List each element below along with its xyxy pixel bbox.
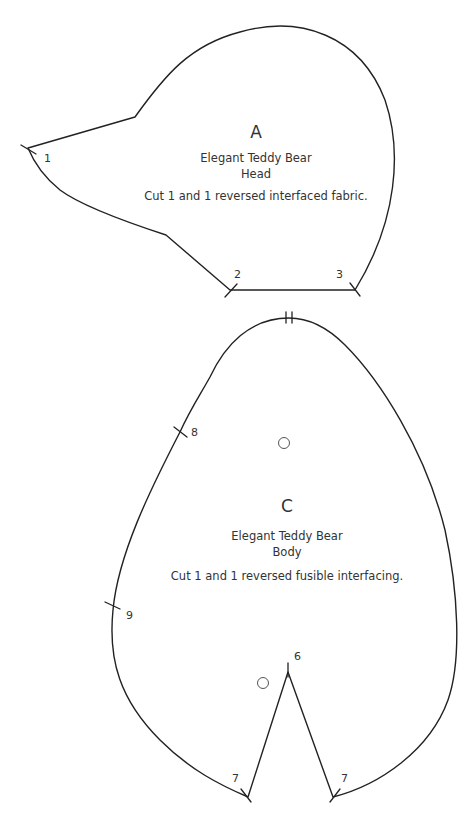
notch-2-label: 2 — [234, 268, 241, 281]
pattern-canvas — [0, 0, 469, 820]
notch-8-mark — [174, 427, 187, 437]
eye-placement-circle — [279, 438, 290, 449]
notch-7-left-label: 7 — [232, 772, 239, 785]
body-piece-title: Elegant Teddy Bear — [231, 529, 342, 543]
notch-3-label: 3 — [336, 268, 343, 281]
head-piece-letter: A — [250, 122, 262, 142]
notch-6-label: 6 — [294, 650, 301, 663]
notch-1-label: 1 — [44, 152, 51, 165]
placement-circle — [258, 678, 269, 689]
body-piece-letter: C — [281, 496, 293, 516]
notch-7-right-label: 7 — [341, 772, 348, 785]
body-cut-instructions: Cut 1 and 1 reversed fusible interfacing… — [171, 569, 403, 583]
head-piece-title: Elegant Teddy Bear — [200, 151, 311, 165]
head-cut-instructions: Cut 1 and 1 reversed interfaced fabric. — [144, 189, 367, 203]
notch-9-label: 9 — [126, 609, 133, 622]
body-piece-name: Body — [272, 545, 301, 559]
head-piece-name: Head — [241, 167, 271, 181]
notch-8-label: 8 — [191, 426, 198, 439]
